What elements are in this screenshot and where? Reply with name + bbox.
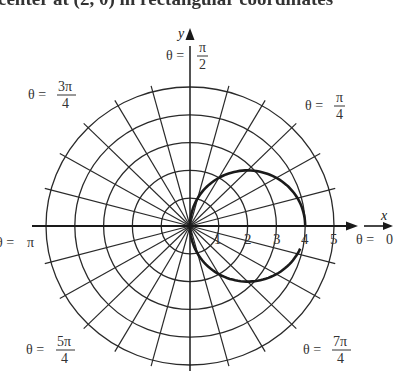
theta-pi-4-den: 4 [336, 107, 343, 122]
tick-1: 1 [214, 231, 222, 247]
theta-5pi-4-num: 5π [57, 334, 71, 349]
angle-label-theta-3pi-4: θ = 3π 4 [28, 79, 76, 111]
angle-label-theta-pi-4: θ = π 4 [305, 90, 345, 122]
polar-ray [84, 123, 190, 226]
theta-3pi-4-prefix: θ = [28, 87, 46, 102]
angle-label-theta-pi: θ = π [0, 235, 34, 250]
theta-5pi-4-prefix: θ = [26, 342, 44, 357]
theta-7pi-4-prefix: θ = [303, 342, 321, 357]
radial-tick-labels: 1 2 3 4 5 [214, 231, 338, 247]
theta-pi-2-prefix: θ = [166, 48, 184, 63]
polar-ray [84, 226, 190, 329]
x-direction-arrowhead [383, 222, 393, 230]
theta-pi-4-num: π [336, 90, 343, 105]
theta-7pi-4-den: 4 [337, 351, 344, 366]
polar-grid-diagram: x y 1 2 3 4 5 θ = π 2 θ = 3π 4 θ = π 4 θ… [0, 0, 397, 371]
theta-3pi-4-num: 3π [58, 79, 72, 94]
tick-2: 2 [244, 231, 252, 247]
polar-ray [60, 226, 190, 299]
tick-4: 4 [301, 231, 309, 247]
theta-0-prefix: θ = [356, 232, 374, 247]
theta-pi-4-prefix: θ = [305, 98, 323, 113]
polar-ray [190, 123, 296, 226]
polar-ray [115, 100, 190, 226]
tick-5: 5 [330, 231, 338, 247]
theta-3pi-4-den: 4 [62, 96, 69, 111]
theta-pi-2-den: 2 [199, 57, 206, 72]
angle-label-theta-0: θ = 0 [356, 232, 393, 247]
theta-5pi-4-den: 4 [61, 351, 68, 366]
polar-ray [60, 153, 190, 226]
theta-7pi-4-num: 7π [333, 334, 347, 349]
y-axis-arrowhead [186, 28, 195, 40]
theta-pi-2-num: π [199, 40, 206, 55]
angle-label-theta-5pi-4: θ = 5π 4 [26, 334, 75, 366]
y-axis-label: y [176, 26, 185, 41]
theta-pi-num: π [27, 235, 34, 250]
angle-label-theta-pi-2: θ = π 2 [166, 40, 208, 72]
polar-ray [115, 226, 190, 352]
polar-ray [190, 226, 265, 352]
polar-ray [190, 153, 320, 226]
x-axis-label: x [380, 208, 388, 223]
x-axis-arrowhead [346, 222, 358, 231]
theta-pi-prefix: θ = [0, 235, 14, 250]
tick-3: 3 [273, 231, 281, 247]
theta-0-num: 0 [386, 232, 393, 247]
polar-ray [190, 100, 265, 226]
angle-label-theta-7pi-4: θ = 7π 4 [303, 334, 351, 366]
